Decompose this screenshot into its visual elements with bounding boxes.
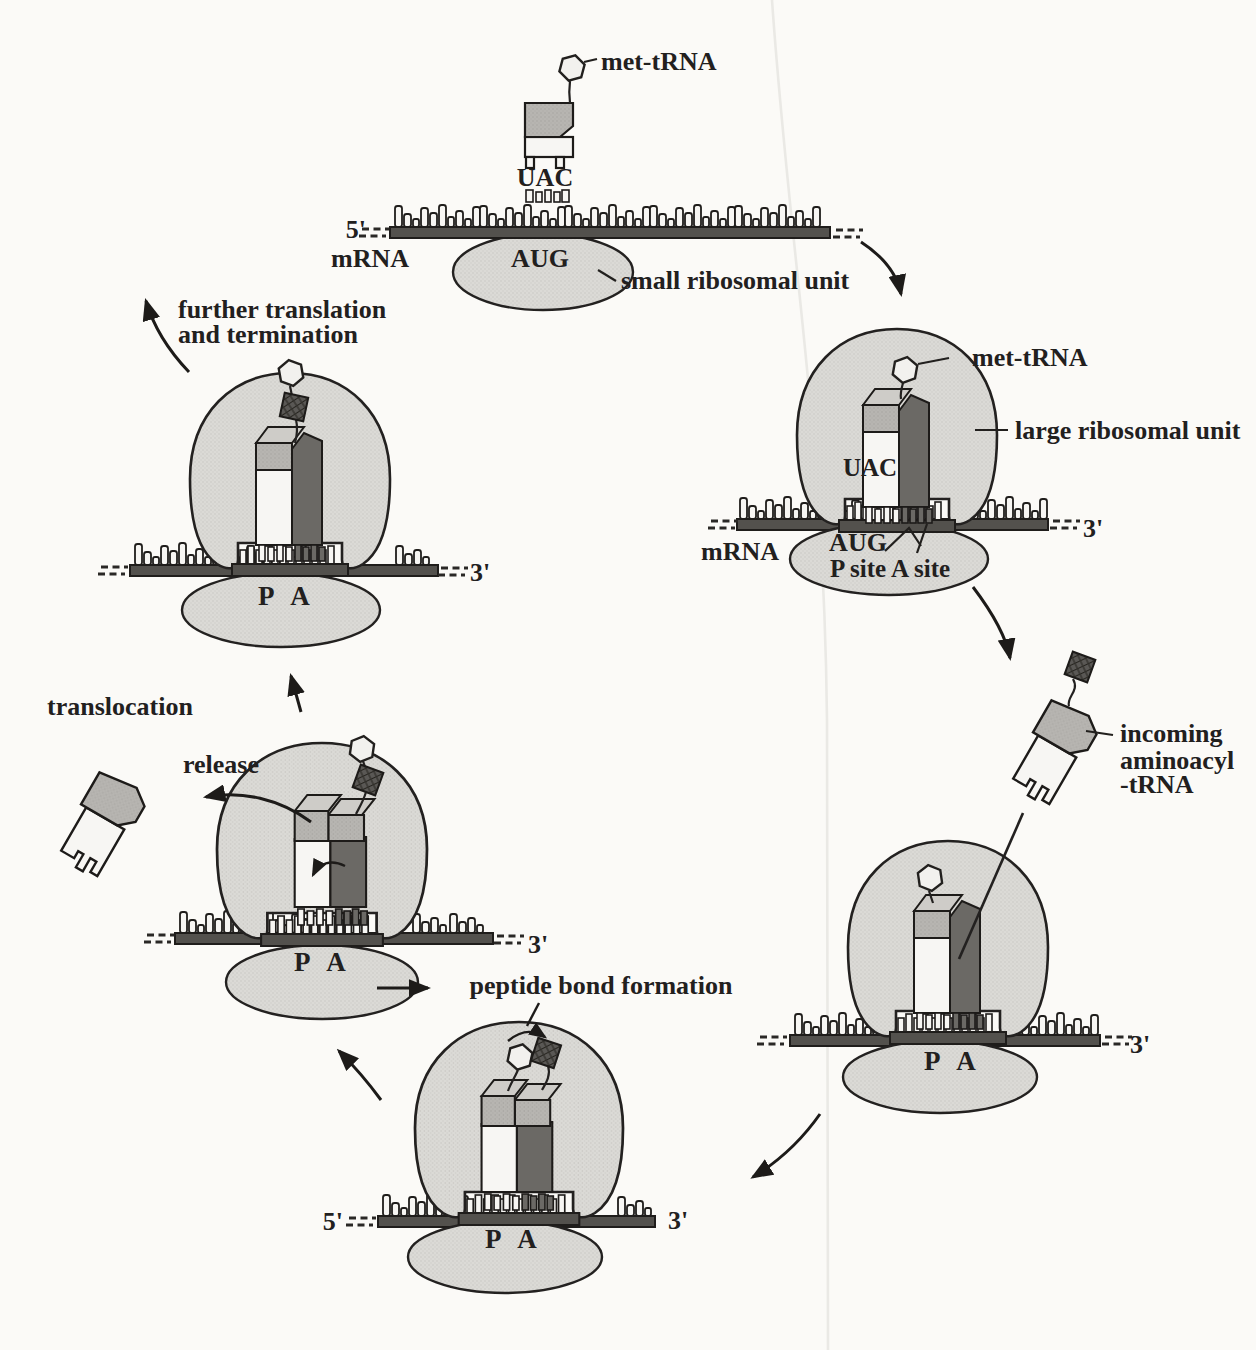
label-3-prime: 3' — [470, 558, 490, 587]
mrna-nucleotides — [395, 205, 820, 227]
mrna-3-dashes — [1050, 521, 1080, 528]
mrna-5-dashes — [346, 1218, 376, 1225]
cycle-arrow-4-to-5 — [339, 1051, 381, 1100]
label-peptide-bond-formation: peptide bond formation — [470, 971, 733, 1000]
label-and-termination: and termination — [178, 320, 358, 349]
page-crease — [772, 0, 828, 1350]
amino-acid-linker — [1069, 679, 1075, 706]
met-stem — [569, 81, 570, 103]
label-p-a-sites: P A — [485, 1224, 537, 1254]
cycle-arrow-1-to-2 — [861, 242, 901, 294]
amino-acid-icon — [1065, 652, 1096, 683]
label-large-ribosomal-unit: large ribosomal unit — [1015, 416, 1241, 445]
label-3-prime: 3' — [1130, 1030, 1150, 1059]
cycle-arrow-2-to-3 — [973, 587, 1010, 658]
mrna-3-dashes — [833, 230, 863, 237]
label-mrna: mRNA — [331, 244, 409, 273]
methionine-icon — [558, 53, 587, 84]
label-aug-codon: AUG — [829, 528, 887, 557]
cycle-arrow-5-to-6 — [291, 676, 301, 712]
amino-acid-icon — [280, 393, 308, 421]
incoming-aminoacyl-trna — [1005, 696, 1103, 810]
trna-p-a-site-assembly — [914, 895, 983, 1029]
large-ribosomal-subunit-complex — [797, 329, 997, 532]
met-trna-leader-line — [584, 59, 597, 62]
translation-cycle-page: met-tRNA UAC 5' mRNA AUG small ribosomal… — [0, 0, 1256, 1350]
stage-6-further-translation: further translation and termination P A … — [98, 295, 490, 647]
label-p-site-a-site: P site A site — [830, 555, 950, 582]
translation-cycle-diagram: met-tRNA UAC 5' mRNA AUG small ribosomal… — [0, 0, 1256, 1350]
label-met-trna: met-tRNA — [972, 343, 1088, 372]
mrna-5-dashes — [98, 567, 128, 574]
label-met-trna: met-tRNA — [601, 47, 717, 76]
label-3-prime: 3' — [668, 1206, 688, 1235]
label-release: release — [183, 750, 259, 779]
label-p-a-sites: P A — [294, 947, 346, 977]
stage-5-translocation: translocation release P A 3' — [47, 676, 548, 1019]
mrna-5-dashes — [757, 1037, 787, 1044]
label-3-prime: 3' — [528, 930, 548, 959]
label-uac-anticodon: UAC — [517, 163, 573, 192]
mrna-3-dashes — [1102, 1037, 1132, 1044]
mrna-5-dashes — [708, 521, 738, 528]
label-3-prime: 3' — [1083, 514, 1103, 543]
label-p-a-sites: P A — [258, 581, 310, 611]
trna-p-a-site-assembly — [482, 1080, 561, 1210]
label-uac-anticodon: UAC — [843, 454, 897, 481]
label-5-prime: 5' — [346, 215, 366, 244]
label-p-a-sites: P A — [924, 1046, 976, 1076]
label-mrna: mRNA — [701, 537, 779, 566]
stage-3-incoming-aminoacyl-trna: incoming aminoacyl -tRNA P A 3' — [753, 652, 1234, 1177]
trna-p-a-site-assembly — [256, 427, 325, 561]
label-small-ribosomal-unit: small ribosomal unit — [621, 266, 850, 295]
stage-4-peptide-bond-formation: peptide bond formation 5' 3' P A — [323, 971, 733, 1293]
stage-1-initiation: met-tRNA UAC 5' mRNA AUG small ribosomal… — [331, 47, 901, 310]
label-translocation: translocation — [47, 692, 193, 721]
label-incoming: incoming — [1120, 719, 1223, 748]
stage-2-large-subunit-joins: met-tRNA large ribosomal unit UAC mRNA A… — [701, 329, 1241, 658]
cycle-arrow-3-to-4 — [753, 1114, 820, 1177]
mrna-strand — [390, 227, 830, 238]
mrna-5-dashes — [144, 935, 174, 942]
released-trna — [53, 768, 151, 882]
label-aug-codon: AUG — [511, 244, 569, 273]
large-ribosomal-subunit-complex — [848, 841, 1048, 1044]
mrna-3-dashes — [494, 936, 524, 943]
label-trna-suffix: -tRNA — [1120, 770, 1194, 799]
mrna-3-dashes — [438, 568, 468, 575]
label-5-prime: 5' — [323, 1207, 343, 1236]
trna-p-a-site-assembly — [295, 795, 375, 925]
